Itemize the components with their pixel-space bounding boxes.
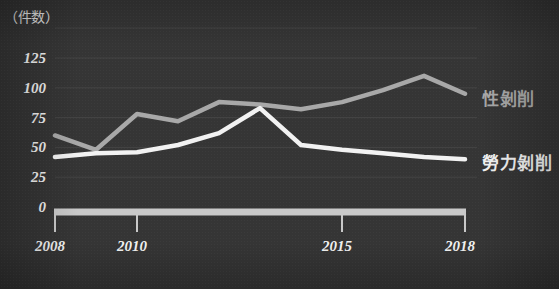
series-line-sexual-exploitation: [55, 76, 465, 150]
series-label-sexual-exploitation: 性剝削: [482, 85, 535, 110]
x-tick-label-2008: 2008: [35, 239, 65, 254]
y-tick-label-75: 75: [0, 111, 46, 126]
x-tick-label-2018: 2018: [445, 239, 475, 254]
y-tick-label-125: 125: [0, 51, 46, 66]
y-tick-label-100: 100: [0, 81, 46, 96]
x-tick-label-2010: 2010: [117, 239, 147, 254]
plot-area: [0, 0, 559, 289]
y-tick-label-0: 0: [0, 200, 46, 215]
y-tick-label-25: 25: [0, 170, 46, 185]
line-chart-canvas: （件数）02550751001252008201020152018性剝削勞力剝削: [0, 0, 559, 289]
series-label-labor-exploitation: 勞力剝削: [482, 149, 552, 174]
y-tick-label-50: 50: [0, 140, 46, 155]
x-tick-label-2015: 2015: [322, 239, 352, 254]
y-axis-unit-label: （件数）: [4, 6, 58, 26]
